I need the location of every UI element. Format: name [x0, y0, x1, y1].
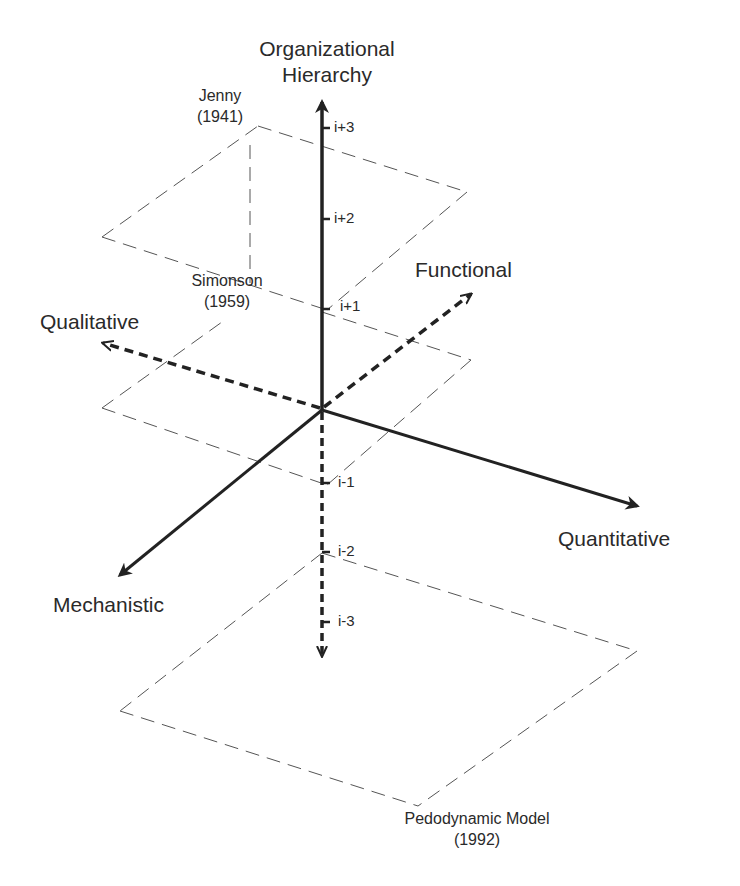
- tick-label-i-minus-1: i-1: [338, 473, 355, 490]
- pedodynamic-year: (1992): [372, 829, 582, 850]
- pedodynamic-plane: [120, 553, 637, 806]
- simonson-model-label: Simonson (1959): [182, 270, 272, 312]
- organizational-hierarchy-label: Organizational Hierarchy: [252, 36, 402, 88]
- mechanistic-axis: [120, 410, 322, 575]
- qualitative-axis: [103, 343, 320, 408]
- simonson-name: Simonson: [182, 270, 272, 291]
- qualitative-label: Qualitative: [40, 310, 139, 334]
- tick-label-i-plus-3: i+3: [334, 118, 354, 135]
- quantitative-axis: [322, 410, 637, 506]
- diagram-canvas: [0, 0, 740, 886]
- organizational-label-line1: Organizational: [252, 36, 402, 62]
- jenny-model-label: Jenny (1941): [190, 85, 250, 127]
- tick-label-i-plus-2: i+2: [334, 209, 354, 226]
- pedodynamic-model-label: Pedodynamic Model (1992): [372, 808, 582, 850]
- jenny-name: Jenny: [190, 85, 250, 106]
- pedodynamic-name: Pedodynamic Model: [372, 808, 582, 829]
- functional-label: Functional: [415, 258, 512, 282]
- jenny-year: (1941): [190, 106, 250, 127]
- tick-label-i-plus-1: i+1: [340, 297, 360, 314]
- tick-label-i-minus-2: i-2: [338, 542, 355, 559]
- jenny-plane: [102, 126, 467, 310]
- quantitative-label: Quantitative: [558, 527, 670, 551]
- mechanistic-label: Mechanistic: [53, 593, 164, 617]
- tick-label-i-minus-3: i-3: [338, 612, 355, 629]
- simonson-year: (1959): [182, 291, 272, 312]
- hierarchy-label-line2: Hierarchy: [252, 62, 402, 88]
